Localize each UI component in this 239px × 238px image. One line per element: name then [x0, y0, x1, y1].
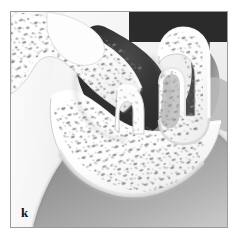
illustration-plate-frame: k — [10, 11, 228, 228]
figure-label: k — [21, 206, 28, 219]
figure-root: k — [0, 0, 239, 238]
anatomical-cross-section-illustration — [11, 12, 227, 227]
